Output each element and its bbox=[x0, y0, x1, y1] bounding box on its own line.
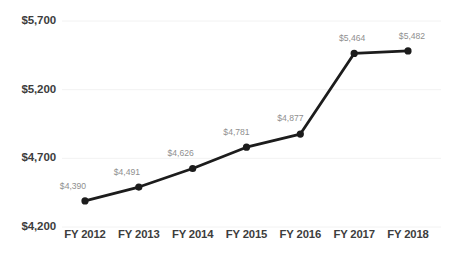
data-point-marker[interactable] bbox=[135, 183, 142, 190]
x-axis-tick-label: FY 2016 bbox=[280, 228, 321, 241]
data-point-label: $4,781 bbox=[223, 127, 249, 137]
data-point-marker[interactable] bbox=[297, 130, 304, 137]
data-point-label: $4,390 bbox=[60, 181, 86, 191]
data-point-marker[interactable] bbox=[81, 197, 88, 204]
data-point-marker[interactable] bbox=[351, 50, 358, 57]
data-point-marker[interactable] bbox=[243, 144, 250, 151]
data-point-label: $4,626 bbox=[168, 148, 194, 158]
y-axis-tick-label: $4,700 bbox=[0, 151, 56, 163]
line-chart: $4,200$4,700$5,200$5,700 FY 2012FY 2013F… bbox=[0, 0, 449, 257]
data-point-markers bbox=[81, 47, 411, 204]
x-axis-tick-label: FY 2012 bbox=[64, 228, 105, 241]
x-axis-tick-label: FY 2017 bbox=[333, 228, 374, 241]
series-line bbox=[85, 51, 408, 201]
y-axis-tick-label: $4,200 bbox=[0, 220, 56, 232]
data-point-marker[interactable] bbox=[404, 47, 411, 54]
x-axis-tick-label: FY 2013 bbox=[118, 228, 159, 241]
y-axis-tick-label: $5,700 bbox=[0, 14, 56, 26]
data-point-label: $5,482 bbox=[399, 31, 425, 41]
x-axis-tick-label: FY 2015 bbox=[226, 228, 267, 241]
y-axis-tick-label: $5,200 bbox=[0, 83, 56, 95]
data-point-marker[interactable] bbox=[189, 165, 196, 172]
x-axis-tick-label: FY 2018 bbox=[387, 228, 428, 241]
data-point-label: $4,877 bbox=[277, 113, 303, 123]
data-point-label: $4,491 bbox=[114, 167, 140, 177]
plot-area: $4,200$4,700$5,200$5,700 FY 2012FY 2013F… bbox=[0, 0, 449, 257]
data-point-label: $5,464 bbox=[339, 33, 365, 43]
x-axis-tick-label: FY 2014 bbox=[172, 228, 213, 241]
